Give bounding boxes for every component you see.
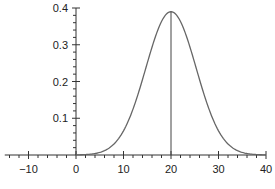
axes xyxy=(5,8,266,159)
y-tick-label: 0.3 xyxy=(53,39,68,51)
y-tick-label: 0.2 xyxy=(53,76,68,88)
x-tick-label: 0 xyxy=(73,163,79,175)
x-tick-label: 40 xyxy=(260,163,272,175)
x-tick-label: −10 xyxy=(19,163,38,175)
y-tick-label: 0.1 xyxy=(53,112,68,124)
x-tick-label: 30 xyxy=(212,163,224,175)
normal-distribution-chart: −100102030400.10.20.30.4 xyxy=(0,0,275,189)
x-tick-label: 10 xyxy=(117,163,129,175)
x-tick-label: 20 xyxy=(165,163,177,175)
y-tick-label: 0.4 xyxy=(53,2,68,14)
